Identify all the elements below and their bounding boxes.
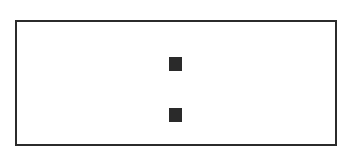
square-mark-top bbox=[169, 57, 182, 71]
square-mark-bottom bbox=[169, 108, 182, 122]
diagram-frame bbox=[15, 20, 337, 146]
